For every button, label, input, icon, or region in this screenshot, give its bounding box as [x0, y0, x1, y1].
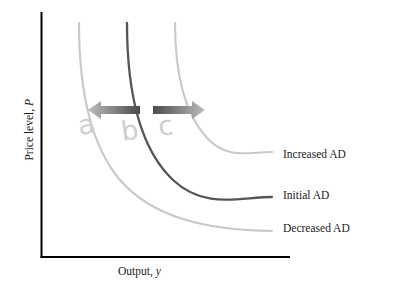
curve-label-decreased-ad: Decreased AD [283, 223, 350, 235]
y-axis-label-variable: P [23, 99, 35, 106]
x-axis-label-text: Output, [118, 265, 156, 277]
x-axis-label-variable: y [156, 265, 161, 277]
y-axis-label-text: Price level, [23, 106, 35, 161]
curve-label-initial-ad: Initial AD [283, 190, 329, 202]
ad-curve-diagram [0, 0, 395, 294]
y-axis-label: Price level, P [24, 82, 36, 178]
x-axis-label: Output, y [118, 266, 161, 278]
increased-ad-curve [175, 23, 272, 153]
handwritten-annotation-a: a [76, 110, 96, 139]
handwritten-annotation-b: b [119, 116, 140, 145]
curve-label-increased-ad: Increased AD [283, 149, 346, 161]
